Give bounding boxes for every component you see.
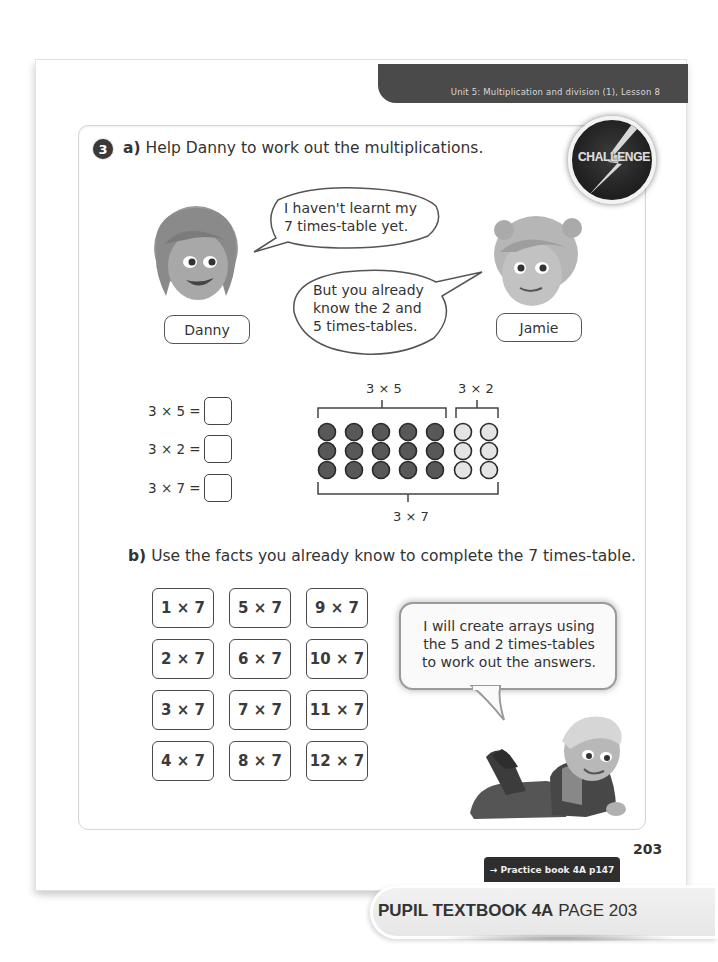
part-a-letter: a)	[123, 139, 141, 157]
fact-card: 8 × 7	[229, 741, 291, 781]
bracket-3x5	[318, 400, 446, 418]
challenge-label: CHALLENGE	[578, 150, 646, 164]
part-b-letter: b)	[128, 547, 146, 565]
fact-card: 4 × 7	[152, 741, 214, 781]
part-a-heading: a) Help Danny to work out the multiplica…	[123, 139, 483, 157]
ribbon-shadow	[440, 934, 680, 942]
book-title: PUPIL TEXTBOOK 4A	[378, 901, 553, 920]
bracket-3x7	[318, 482, 498, 502]
fact-card: 1 × 7	[152, 588, 214, 628]
fact-card: 12 × 7	[306, 741, 368, 781]
jamie-speech-text: But you already know the 2 and 5 times-t…	[313, 281, 424, 335]
fact-card: 7 × 7	[229, 690, 291, 730]
bracket-3x2	[456, 400, 498, 418]
part-b-instruction: Use the facts you already know to comple…	[151, 547, 636, 565]
array-label-3x5: 3 × 5	[366, 381, 402, 396]
equation-label: 3 × 2 =	[148, 441, 201, 457]
answer-box[interactable]	[204, 474, 232, 502]
fact-card: 2 × 7	[152, 639, 214, 679]
equation-label: 3 × 5 =	[148, 403, 201, 419]
fact-card: 9 × 7	[306, 588, 368, 628]
page-number: 203	[633, 841, 662, 857]
fact-card: 3 × 7	[152, 690, 214, 730]
helper-character-illustration	[466, 705, 636, 823]
danny-avatar	[146, 200, 246, 308]
practice-book-link[interactable]: → Practice book 4A p147	[484, 857, 620, 882]
fact-card: 10 × 7	[306, 639, 368, 679]
challenge-badge: CHALLENGE	[568, 116, 656, 204]
danny-name-tag: Danny	[164, 315, 250, 344]
counter-array	[315, 398, 505, 508]
array-label-3x7: 3 × 7	[393, 509, 429, 524]
fact-card: 5 × 7	[229, 588, 291, 628]
book-page: PAGE 203	[558, 901, 637, 920]
helper-speech-text: I will create arrays using the 5 and 2 t…	[412, 617, 606, 671]
lesson-header-bar: Unit 5: Multiplication and division (1),…	[378, 64, 688, 103]
equation-row: 3 × 7 =	[148, 474, 232, 502]
danny-speech-text: I haven't learnt my 7 times-table yet.	[284, 199, 417, 235]
equation-row: 3 × 2 =	[148, 435, 232, 463]
part-a-instruction: Help Danny to work out the multiplicatio…	[145, 139, 483, 157]
fact-card: 6 × 7	[229, 639, 291, 679]
question-number-badge: 3	[93, 139, 113, 159]
answer-box[interactable]	[204, 397, 232, 425]
answer-box[interactable]	[204, 435, 232, 463]
equation-label: 3 × 7 =	[148, 480, 201, 496]
array-label-3x2: 3 × 2	[458, 381, 494, 396]
jamie-name-tag: Jamie	[496, 313, 582, 342]
equation-row: 3 × 5 =	[148, 397, 232, 425]
jamie-avatar	[486, 208, 586, 314]
fact-card: 11 × 7	[306, 690, 368, 730]
part-b-heading: b) Use the facts you already know to com…	[128, 547, 636, 565]
book-ribbon-label: PUPIL TEXTBOOK 4A PAGE 203	[378, 901, 637, 921]
lesson-title: Unit 5: Multiplication and division (1),…	[451, 87, 660, 97]
